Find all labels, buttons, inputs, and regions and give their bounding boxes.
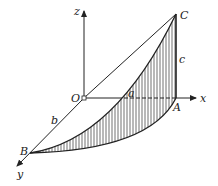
origin-label: O (71, 92, 80, 105)
edge-label-b: b (51, 114, 58, 127)
edge-label-a: a (128, 87, 135, 100)
origin-marker (82, 96, 86, 100)
y-axis-label: y (16, 168, 24, 181)
x-axis-label: x (200, 92, 207, 105)
z-axis-label: z (73, 5, 80, 18)
shaded-region (34, 0, 175, 186)
diagram-canvas: z x y O C A B a b c (0, 0, 218, 186)
edge-label-c: c (179, 53, 185, 66)
coordinate-diagram: z x y O C A B a b c (0, 0, 218, 186)
point-B-label: B (19, 145, 28, 158)
point-A-label: A (172, 101, 181, 114)
point-C-label: C (180, 9, 189, 22)
edge-OC (84, 14, 176, 98)
